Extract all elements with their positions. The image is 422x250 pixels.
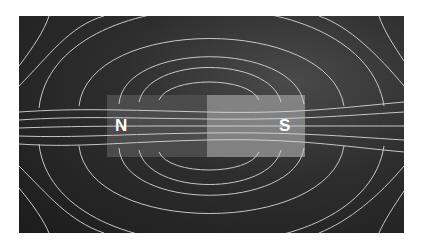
south-pole-label: S <box>279 116 290 136</box>
field-lines <box>19 16 404 233</box>
north-pole-label: N <box>115 116 127 136</box>
magnet-field-illustration: N S <box>19 16 404 233</box>
